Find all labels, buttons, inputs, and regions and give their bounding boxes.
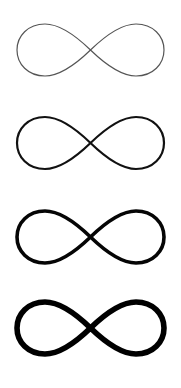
infinity-regular-icon [0, 95, 181, 191]
infinity-thin-icon [0, 2, 181, 98]
infinity-extra-bold-icon [0, 280, 181, 376]
infinity-bold-icon [0, 189, 181, 285]
